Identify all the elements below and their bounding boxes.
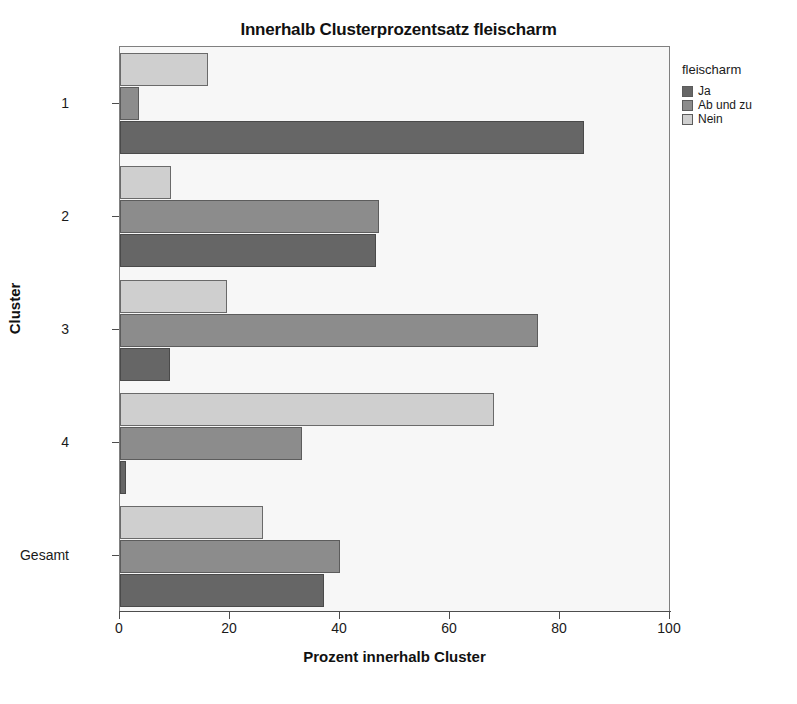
x-axis-tick	[119, 612, 120, 619]
y-axis-tick	[112, 555, 119, 556]
bar	[120, 166, 171, 199]
legend-swatch-icon	[682, 100, 693, 111]
legend-items: JaAb und zuNein	[682, 85, 752, 125]
y-axis-tick-label: 1	[61, 95, 69, 111]
x-axis-tick	[559, 612, 560, 619]
x-axis-tick-label: 60	[441, 620, 457, 636]
y-axis-tick	[112, 329, 119, 330]
bar	[120, 200, 379, 233]
x-axis-tick	[339, 612, 340, 619]
chart-container: Innerhalb Clusterprozentsatz fleischarm …	[0, 0, 797, 704]
bar	[120, 314, 538, 347]
x-axis-tick-label: 100	[657, 620, 680, 636]
bar	[120, 540, 340, 573]
bar	[120, 574, 324, 607]
y-axis-tick-label: 3	[61, 321, 69, 337]
legend-item-label: Ab und zu	[698, 99, 752, 111]
x-axis-title: Prozent innerhalb Cluster	[119, 648, 670, 665]
legend-swatch-icon	[682, 86, 693, 97]
bar	[120, 506, 263, 539]
y-axis-tick-label: 4	[61, 434, 69, 450]
x-axis-tick-label: 20	[221, 620, 237, 636]
bar	[120, 348, 170, 381]
x-axis-tick	[669, 612, 670, 619]
legend-title: fleischarm	[682, 62, 752, 77]
y-axis-title: Cluster	[6, 229, 23, 389]
legend-item-label: Nein	[698, 113, 723, 125]
y-axis-tick	[112, 442, 119, 443]
bar	[120, 427, 302, 460]
y-axis-tick	[112, 103, 119, 104]
bar	[120, 121, 584, 154]
x-axis-tick-label: 0	[115, 620, 123, 636]
bar	[120, 280, 227, 313]
x-axis-tick-label: 40	[331, 620, 347, 636]
legend-swatch-icon	[682, 114, 693, 125]
plot-area	[119, 46, 670, 612]
x-axis-tick	[449, 612, 450, 619]
legend-item: Ja	[682, 85, 752, 97]
bar	[120, 53, 208, 86]
legend-item-label: Ja	[698, 85, 711, 97]
bars-layer	[120, 47, 669, 611]
bar	[120, 461, 126, 494]
legend: fleischarm JaAb und zuNein	[682, 62, 752, 127]
legend-item: Ab und zu	[682, 99, 752, 111]
x-axis-tick	[229, 612, 230, 619]
y-axis-tick	[112, 216, 119, 217]
bar	[120, 234, 376, 267]
chart-title: Innerhalb Clusterprozentsatz fleischarm	[0, 20, 797, 40]
bar	[120, 87, 139, 120]
bar	[120, 393, 494, 426]
y-axis-tick-label: Gesamt	[20, 547, 69, 563]
legend-item: Nein	[682, 113, 752, 125]
x-axis-line	[119, 611, 671, 612]
x-axis-tick-label: 80	[551, 620, 567, 636]
y-axis-tick-label: 2	[61, 208, 69, 224]
